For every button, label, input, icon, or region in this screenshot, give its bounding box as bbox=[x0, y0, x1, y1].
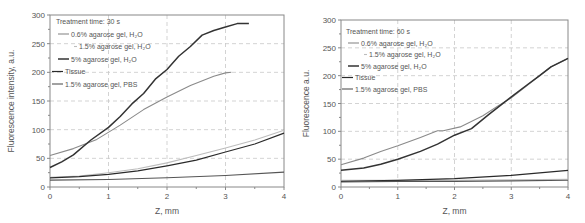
legend-label: 1.5% agarose gel, PBS bbox=[355, 86, 428, 94]
y-tick-label: 50 bbox=[327, 155, 336, 164]
y-axis-label: Fluorescence intensity, a.u. bbox=[6, 50, 16, 153]
y-tick-label: 150 bbox=[32, 97, 46, 106]
x-tick-label: 0 bbox=[48, 192, 53, 201]
y-axis-label: Fluorescence a.u. bbox=[301, 70, 311, 138]
x-tick-label: 2 bbox=[452, 192, 457, 201]
legend-label: 1.5% agarose gel, H₂O bbox=[79, 43, 151, 51]
x-axis-label: Z, mm bbox=[155, 206, 179, 216]
y-tick-label: 150 bbox=[323, 100, 337, 109]
legend-label: Tissue bbox=[355, 74, 375, 81]
legend-label: 0.6% agarose gel, H₂O bbox=[361, 40, 433, 48]
chart-left: 01234050100150200250300Z, mmFluorescence… bbox=[0, 0, 295, 223]
legend-label: 5% agarose gel, H₂O bbox=[71, 56, 137, 64]
legend-label: Tissue bbox=[65, 68, 85, 75]
x-tick-label: 4 bbox=[282, 192, 287, 201]
legend: Treatment time: 30 s0.6% agarose gel, H₂… bbox=[52, 18, 151, 89]
y-tick-label: 250 bbox=[32, 40, 46, 49]
x-tick-label: 2 bbox=[165, 192, 170, 201]
y-tick-label: 300 bbox=[32, 11, 46, 20]
legend-label: 1.5% agarose gel, PBS bbox=[65, 81, 138, 89]
legend-label: 1.5% agarose gel, H₂O bbox=[369, 51, 441, 59]
axes: 01234050100150200250300 bbox=[32, 11, 287, 201]
legend-label: 5% agarose gel, H₂O bbox=[361, 63, 427, 71]
legend-label: 0.6% agarose gel, H₂O bbox=[71, 31, 143, 39]
x-tick-label: 0 bbox=[339, 192, 344, 201]
x-tick-label: 3 bbox=[509, 192, 514, 201]
x-axis-label: Z, mm bbox=[442, 206, 466, 216]
chart-left-svg: 01234050100150200250300Z, mmFluorescence… bbox=[0, 0, 295, 223]
y-tick-label: 0 bbox=[332, 183, 337, 192]
legend-title: Treatment time: 30 s bbox=[56, 18, 120, 25]
gridlines bbox=[50, 15, 284, 187]
x-tick-label: 1 bbox=[396, 192, 401, 201]
y-tick-label: 250 bbox=[323, 44, 337, 53]
legend-title: Treatment time: 60 s bbox=[346, 28, 410, 35]
y-tick-label: 300 bbox=[323, 16, 337, 25]
chart-right-svg: 01234050100150200250300Z, mmFluorescence… bbox=[295, 0, 585, 223]
x-tick-label: 4 bbox=[566, 192, 571, 201]
y-tick-label: 50 bbox=[36, 154, 45, 163]
legend: Treatment time: 60 s0.6% agarose gel, H₂… bbox=[342, 28, 441, 94]
y-tick-label: 100 bbox=[323, 127, 337, 136]
y-tick-label: 100 bbox=[32, 126, 46, 135]
x-tick-label: 3 bbox=[223, 192, 228, 201]
chart-right: 01234050100150200250300Z, mmFluorescence… bbox=[295, 0, 585, 223]
y-tick-label: 0 bbox=[41, 183, 46, 192]
y-tick-label: 200 bbox=[323, 72, 337, 81]
x-tick-label: 1 bbox=[106, 192, 111, 201]
y-tick-label: 200 bbox=[32, 68, 46, 77]
